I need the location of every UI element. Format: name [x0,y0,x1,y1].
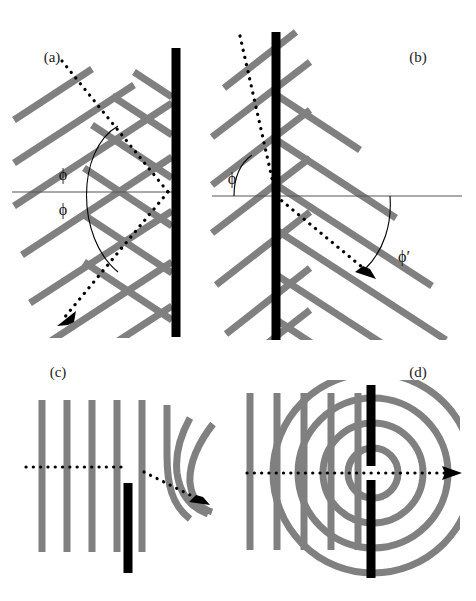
panel-d-ray-arrowhead [442,466,462,480]
panel-b-angle-label-refracted: ϕ′ [398,248,410,266]
panel-a-angle-label-reflected: ϕ [59,201,67,219]
panel-c: (c) [26,364,213,573]
panel-b: (b) ϕ ϕ′ [212,32,462,402]
figure-container: (a) ϕ ϕ [0,0,476,601]
panel-b-label: (b) [409,49,427,66]
panel-a-wavefronts [14,69,172,372]
panel-b-refracted-wavefronts [278,96,446,402]
figure-canvas: (a) ϕ ϕ [0,0,476,601]
panel-d: (d) [247,364,473,578]
panel-a-label: (a) [44,49,61,66]
panel-a-angle-label-incident: ϕ [59,166,67,184]
panel-b-ray-arrowhead [355,266,376,279]
panel-b-wavefronts [212,32,446,402]
panel-b-angle-label-incident: ϕ [228,170,236,188]
panel-d-label: (d) [409,364,427,381]
panel-a: (a) ϕ ϕ [12,48,176,372]
panel-c-label: (c) [50,364,67,381]
